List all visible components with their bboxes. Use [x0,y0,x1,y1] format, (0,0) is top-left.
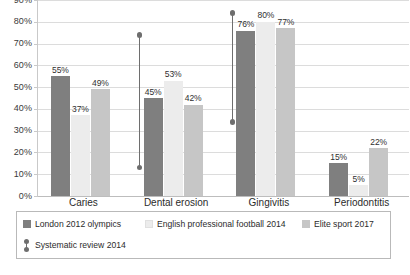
systematic-review-range-marker [232,13,233,122]
legend-item[interactable]: London 2012 olympics [23,219,121,229]
y-axis-tick-label: 0% [19,192,32,201]
y-axis-tick-label: 10% [14,170,32,179]
bar-value-label: 76% [232,20,259,29]
bar-value-label: 22% [365,138,392,147]
bar-value-label: 49% [87,79,114,88]
chart-legend: London 2012 olympicsEnglish professional… [16,211,391,259]
bar-value-label: 42% [180,94,207,103]
bar-group-periodontitis: 15%5%22% [316,0,409,196]
range-upper-dot [137,32,142,37]
systematic-review-range-marker [139,35,140,168]
legend-color-swatch [145,220,153,228]
x-axis-label-gingivitis: Gingivitis [223,197,316,209]
bar-value-label: 45% [140,88,167,97]
bar-value-label: 77% [272,18,299,27]
y-axis-tick-label: 80% [14,17,32,26]
bar [369,148,388,196]
y-axis-tick-label: 20% [14,148,32,157]
bar-value-label: 5% [345,175,372,184]
plot-area: 55%37%49%45%53%42%76%80%77%15%5%22% [37,0,409,196]
grouped-bar-chart: 0%10%20%30%40%50%60%70%80%90% 55%37%49%4… [0,0,410,275]
bar [184,105,203,196]
y-axis: 0%10%20%30%40%50%60%70%80%90% [0,0,36,196]
bar [349,185,368,196]
bar [71,115,90,196]
x-axis-label-periodontitis: Periodontitis [315,197,408,209]
bar-group-dental-erosion: 45%53%42% [131,0,224,196]
y-axis-tick-label: 30% [14,126,32,135]
legend-label: Elite sport 2017 [314,219,374,229]
bar-value-label: 15% [325,153,352,162]
legend-color-swatch [302,220,310,228]
x-axis-label-caries: Caries [37,197,130,209]
legend-range-marker-icon [23,239,31,251]
bar [256,22,275,196]
bar-group-gingivitis: 76%80%77% [224,0,317,196]
range-lower-dot [230,119,235,124]
plot-area-wrapper: 0%10%20%30%40%50%60%70%80%90% 55%37%49%4… [0,0,410,196]
bar-value-label: 37% [67,105,94,114]
bar [51,76,70,196]
legend-item[interactable]: English professional football 2014 [145,219,286,229]
legend-item[interactable]: Systematic review 2014 [23,239,126,251]
y-axis-tick-label: 40% [14,104,32,113]
bar [144,98,163,196]
y-axis-tick-label: 60% [14,61,32,70]
legend-color-swatch [23,220,31,228]
legend-label: London 2012 olympics [35,219,121,229]
legend-label: Systematic review 2014 [35,240,126,250]
range-upper-dot [230,10,235,15]
bar [276,28,295,196]
bar [236,31,255,197]
y-axis-tick-label: 50% [14,83,32,92]
bar [91,89,110,196]
bar-group-caries: 55%37%49% [38,0,131,196]
y-axis-tick-label: 70% [14,39,32,48]
x-axis-label-dental-erosion: Dental erosion [130,197,223,209]
bar-value-label: 55% [47,66,74,75]
legend-label: English professional football 2014 [157,219,286,229]
y-axis-tick-label: 90% [14,0,32,5]
legend-item[interactable]: Elite sport 2017 [302,219,374,229]
bar-value-label: 53% [160,70,187,79]
